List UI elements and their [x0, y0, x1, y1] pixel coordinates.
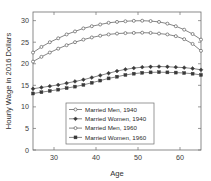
data-point-marker	[124, 73, 127, 76]
y-tick-label: 30	[21, 16, 29, 25]
data-point-marker	[200, 49, 203, 52]
data-point-marker	[57, 37, 60, 40]
data-point-marker	[166, 33, 169, 36]
data-point-marker	[74, 108, 77, 111]
y-tick-label: 5	[25, 124, 29, 133]
data-point-marker	[32, 51, 35, 54]
data-point-marker	[124, 32, 127, 35]
data-point-marker	[40, 55, 43, 58]
data-point-marker	[166, 22, 169, 25]
x-tick-label: 30	[50, 153, 58, 162]
data-point-marker	[48, 51, 51, 54]
data-point-marker	[183, 38, 186, 41]
x-tick-label: 40	[92, 153, 100, 162]
data-point-marker	[174, 35, 177, 38]
data-point-marker	[183, 72, 186, 75]
data-point-marker	[191, 32, 194, 35]
data-point-marker	[90, 81, 93, 84]
data-point-marker	[141, 19, 144, 22]
data-point-marker	[65, 33, 68, 36]
data-point-marker	[82, 83, 85, 86]
data-point-marker	[74, 41, 77, 44]
legend-item-label: Married Men, 1940	[85, 106, 137, 113]
data-point-marker	[116, 75, 119, 78]
data-point-marker	[40, 91, 43, 94]
data-point-marker	[32, 60, 35, 63]
y-tick-label: 10	[21, 102, 29, 111]
wage-by-age-line-chart: 30405060 051015202530 Married Men, 1940M…	[0, 0, 211, 181]
data-point-marker	[65, 44, 68, 47]
data-point-marker	[74, 85, 77, 88]
x-tick-label: 50	[134, 153, 142, 162]
data-point-marker	[141, 31, 144, 34]
data-point-marker	[48, 41, 51, 44]
data-point-marker	[166, 71, 169, 74]
data-point-marker	[132, 31, 135, 34]
data-point-marker	[149, 31, 152, 34]
data-point-marker	[174, 71, 177, 74]
data-point-marker	[90, 36, 93, 39]
data-point-marker	[141, 71, 144, 74]
data-point-marker	[74, 136, 77, 139]
data-point-marker	[99, 34, 102, 37]
data-point-marker	[107, 21, 110, 24]
data-point-marker	[107, 77, 110, 80]
data-point-marker	[99, 23, 102, 26]
data-point-marker	[200, 73, 203, 76]
data-point-marker	[132, 19, 135, 22]
chart-legend: Married Men, 1940Married Women, 1940Marr…	[66, 103, 154, 144]
data-point-marker	[183, 28, 186, 31]
data-point-marker	[149, 20, 152, 23]
y-axis-title: Hourly Wage in 2016 Dollars	[4, 33, 13, 130]
legend-item-label: Married Women, 1960	[85, 134, 147, 141]
x-tick-label: 60	[176, 153, 184, 162]
x-axis-title: Age	[110, 169, 124, 178]
data-point-marker	[99, 79, 102, 82]
legend-item-label: Married Men, 1960	[85, 124, 137, 131]
data-point-marker	[116, 32, 119, 35]
data-point-marker	[48, 89, 51, 92]
data-point-marker	[32, 92, 35, 95]
y-tick-label: 20	[21, 59, 29, 68]
data-point-marker	[124, 20, 127, 23]
data-point-marker	[158, 20, 161, 23]
data-point-marker	[57, 88, 60, 91]
data-point-marker	[116, 20, 119, 23]
data-point-marker	[90, 25, 93, 28]
y-tick-label: 25	[21, 38, 29, 47]
y-tick-label: 0	[25, 146, 29, 155]
data-point-marker	[107, 33, 110, 36]
data-point-marker	[82, 27, 85, 30]
data-point-marker	[174, 25, 177, 28]
data-point-marker	[158, 71, 161, 74]
y-tick-label: 15	[21, 81, 29, 90]
data-point-marker	[191, 72, 194, 75]
data-point-marker	[132, 72, 135, 75]
data-point-marker	[57, 47, 60, 50]
chart-figure: 30405060 051015202530 Married Men, 1940M…	[0, 0, 211, 181]
data-point-marker	[158, 32, 161, 35]
data-point-marker	[65, 87, 68, 90]
data-point-marker	[82, 38, 85, 41]
data-point-marker	[200, 38, 203, 41]
legend-item-label: Married Women, 1940	[85, 115, 147, 122]
data-point-marker	[74, 30, 77, 33]
data-point-marker	[191, 42, 194, 45]
data-point-marker	[149, 71, 152, 74]
data-point-marker	[40, 45, 43, 48]
data-point-marker	[74, 127, 77, 130]
